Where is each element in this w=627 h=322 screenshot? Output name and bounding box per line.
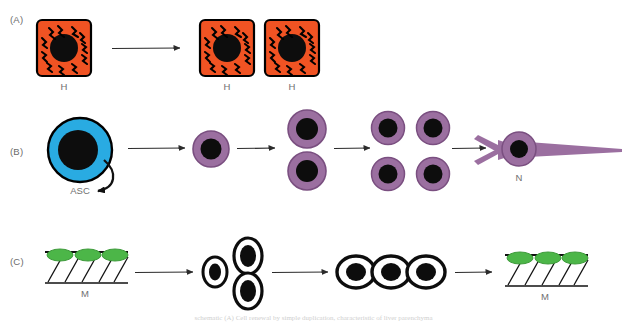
panel-c-group xyxy=(45,238,588,309)
arrow-c-3 xyxy=(455,272,492,273)
label-hepatocyte-3: H xyxy=(272,81,312,92)
label-muscle-source: M xyxy=(65,288,105,299)
progenitor-nucleus xyxy=(379,119,398,138)
progenitor-nucleus xyxy=(296,118,318,140)
satellite-cell xyxy=(562,252,588,264)
adult-stem-cell xyxy=(48,118,112,182)
label-asc: ASC xyxy=(57,185,103,196)
progenitor-7 xyxy=(417,158,450,191)
myotube-nucleus xyxy=(381,263,401,281)
arrow-c-2 xyxy=(272,272,328,273)
arrow-c-1 xyxy=(135,272,193,273)
progenitor-nucleus xyxy=(424,165,443,184)
myoblast-2 xyxy=(234,238,262,274)
satellite-cell xyxy=(507,252,533,264)
neuron xyxy=(474,132,622,166)
myoblast-nucleus xyxy=(209,264,221,281)
label-neuron: N xyxy=(499,172,539,183)
myoblast-3 xyxy=(234,273,262,309)
arrow-b-1 xyxy=(128,148,185,149)
satellite-cell xyxy=(102,249,128,261)
arrow-b-3 xyxy=(334,148,370,149)
panel-label-b: (B) xyxy=(10,146,23,157)
neuron-dendrite-upper xyxy=(474,135,500,152)
myotube-2 xyxy=(372,256,410,288)
panel-label-a: (A) xyxy=(10,14,23,25)
label-hepatocyte-1: H xyxy=(44,81,84,92)
label-hepatocyte-2: H xyxy=(207,81,247,92)
panel-label-c: (C) xyxy=(10,256,24,267)
progenitor-4 xyxy=(372,112,405,145)
progenitor-3 xyxy=(288,152,326,190)
satellite-cell xyxy=(47,249,73,261)
progenitor-nucleus xyxy=(379,165,398,184)
hepatocyte-source xyxy=(37,20,91,76)
neuron-dendrite-lower xyxy=(474,149,500,165)
neuron-axon xyxy=(528,142,622,157)
satellite-cell xyxy=(75,249,101,261)
arrow-b-2 xyxy=(237,148,275,149)
myoblast-nucleus xyxy=(240,245,256,267)
myoblast-nucleus xyxy=(240,280,256,302)
satellite-cell xyxy=(535,252,561,264)
myoblast-1 xyxy=(203,257,227,287)
myotube-1 xyxy=(337,256,375,288)
muscle-fiber-source xyxy=(45,249,128,283)
figure-root: (A) (B) (C) H H H ASC N M M schematic (A… xyxy=(0,0,627,322)
myotube-nucleus xyxy=(416,263,436,281)
progenitor-nucleus xyxy=(296,160,318,182)
label-muscle-result: M xyxy=(525,291,565,302)
progenitor-nucleus xyxy=(424,119,443,138)
hepatocyte-daughter-2 xyxy=(265,20,319,76)
asc-nucleus xyxy=(58,130,98,170)
diagram-canvas xyxy=(0,0,627,322)
panel-a-group xyxy=(37,20,319,76)
muscle-fiber-result xyxy=(505,252,588,286)
progenitor-1 xyxy=(193,131,229,167)
myotube-nucleus xyxy=(346,263,366,281)
progenitor-6 xyxy=(372,158,405,191)
arrow-b-4 xyxy=(452,148,486,149)
myotube-3 xyxy=(407,256,445,288)
progenitor-nucleus xyxy=(201,139,222,160)
progenitor-5 xyxy=(417,112,450,145)
hepatocyte-daughter-1 xyxy=(200,20,254,76)
progenitor-2 xyxy=(288,110,326,148)
arrow-a-1 xyxy=(112,48,180,49)
bottom-caption: schematic (A) Cell renewal by simple dup… xyxy=(0,314,627,322)
neuron-nucleus xyxy=(510,140,528,158)
